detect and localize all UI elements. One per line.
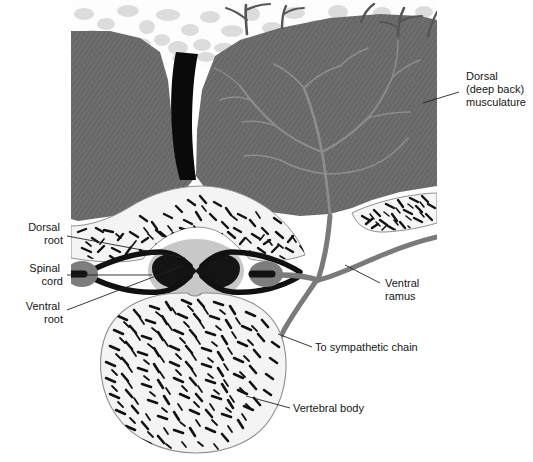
- vertebral-body: [101, 293, 287, 453]
- label-sympathetic-chain: To sympathetic chain: [315, 341, 418, 353]
- deep-back-musculature: [71, 14, 437, 221]
- anatomy-figure: Dorsal (deep back) musculature Dorsal ro…: [0, 0, 533, 462]
- label-vertebral-body: Vertebral body: [293, 402, 364, 414]
